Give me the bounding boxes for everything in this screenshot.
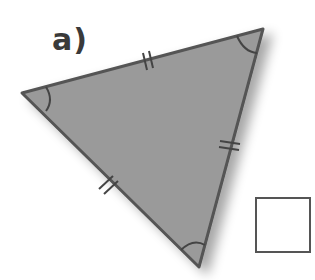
answer-box[interactable] (255, 197, 311, 253)
